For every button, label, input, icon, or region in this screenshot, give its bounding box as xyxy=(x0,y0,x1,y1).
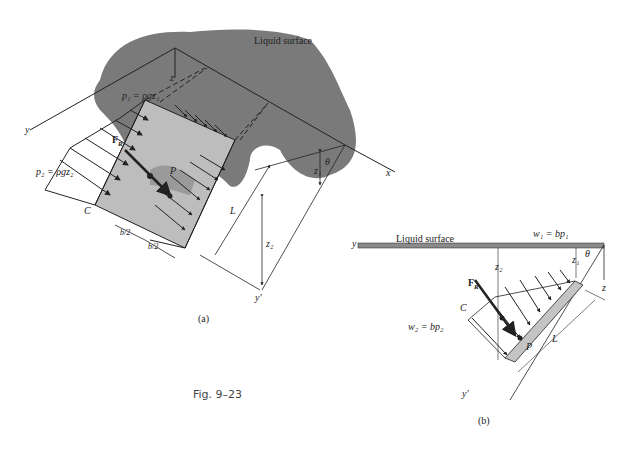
panel-b-label: (b) xyxy=(478,415,490,426)
theta-label-a: θ xyxy=(325,156,330,167)
w1-label: w₁ = bp₁ xyxy=(533,228,568,239)
point-p-label-b: P xyxy=(526,341,532,352)
z1-label-b: z₁ xyxy=(572,254,579,265)
force-label-b: FR xyxy=(468,277,479,291)
half-b-label-2: b/2 xyxy=(148,242,158,251)
axis-x-label-a: x xyxy=(386,167,390,178)
liquid-surface-label-a: Liquid surface xyxy=(254,35,312,46)
half-b-label-1: b/2 xyxy=(120,228,130,237)
axis-y-label-b: y xyxy=(352,238,356,249)
axis-yprime-label-a: y′ xyxy=(255,292,262,303)
diagram-canvas xyxy=(0,0,631,452)
axis-yprime-label-b: y′ xyxy=(462,388,469,399)
p2-label: p₂ = ρgz₂ xyxy=(36,166,73,177)
p1-label: p₁ = ρgz₁ xyxy=(122,90,159,101)
liquid-surface-bar xyxy=(358,243,604,248)
length-label-a: L xyxy=(230,205,236,216)
figure-caption: Fig. 9–23 xyxy=(193,388,242,401)
theta-label-b: θ xyxy=(585,248,590,259)
z1-label-a: z₁ xyxy=(314,165,321,176)
plate-b xyxy=(505,281,583,362)
length-label-b: L xyxy=(552,333,558,344)
w2-label: w₂ = bp₂ xyxy=(408,321,443,332)
panel-a-label: (a) xyxy=(198,313,209,324)
z2-label-b: z₂ xyxy=(495,261,502,272)
axis-z-label-a: z xyxy=(170,72,174,83)
liquid-surface-label-b: Liquid surface xyxy=(396,233,454,244)
point-c-label-b: C xyxy=(460,302,467,313)
axis-y-label-a: y xyxy=(25,124,29,135)
figure-9-23: Liquid surface z p₁ = ρgz₁ y FR p₂ = ρgz… xyxy=(0,0,631,452)
force-label-a: FR xyxy=(112,134,123,148)
point-c-label-a: C xyxy=(84,205,91,216)
z2-label-a: z₂ xyxy=(266,238,273,249)
axis-z-label-b: z xyxy=(602,282,606,293)
point-p-label-a: P xyxy=(170,165,176,176)
